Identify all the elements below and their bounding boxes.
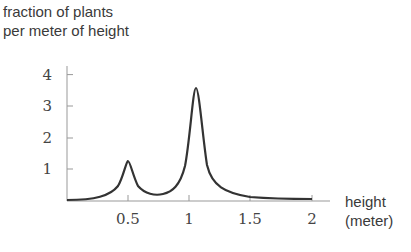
x-tick-2: 2 (307, 210, 317, 228)
x-tick-1.5: 1.5 (238, 210, 262, 228)
x-axis-label-line-2: (meter) (345, 211, 393, 230)
x-axis-label-line-1: height (345, 192, 393, 211)
x-tick-0.5: 0.5 (116, 210, 140, 228)
y-tick-3: 3 (42, 97, 52, 115)
y-axis: 4 3 2 1 (42, 66, 73, 201)
y-tick-2: 2 (42, 129, 52, 147)
y-tick-1: 1 (42, 160, 52, 178)
distribution-curve (67, 88, 312, 200)
x-axis: 0.5 1 1.5 2 (67, 195, 330, 228)
y-tick-4: 4 (42, 66, 52, 84)
x-tick-1: 1 (184, 210, 194, 228)
x-axis-label: height (meter) (345, 192, 393, 230)
